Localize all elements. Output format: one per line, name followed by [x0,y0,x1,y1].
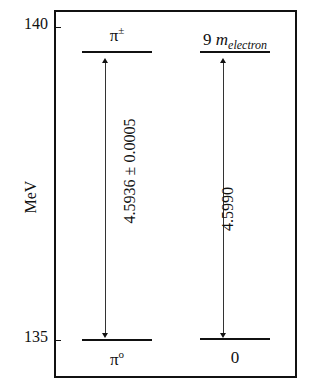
left-arrow-line [105,60,106,336]
tick-label-140: 140 [8,15,48,33]
electron-mass-label: 9 melectron [185,30,285,53]
electron-mass-difference: 4.5990 [219,179,237,239]
diagram-frame [54,10,297,378]
arrow-up-icon [102,58,108,63]
tick-140 [54,27,61,28]
pi-charged-label: π± [67,24,167,46]
y-axis-label: MeV [22,172,40,222]
pi-neutral-level [82,339,152,341]
zero-label: 0 [185,348,285,368]
arrow-down-icon [102,333,108,338]
electron-mass-level [200,51,270,53]
pion-mass-difference: 4.5936 ± 0.0005 [121,101,139,241]
zero-level [200,338,270,340]
tick-135 [54,340,61,341]
arrow-up-icon [220,58,226,63]
pi-neutral-label: πo [67,348,167,370]
pi-charged-level [82,51,152,53]
tick-label-135: 135 [8,328,48,346]
